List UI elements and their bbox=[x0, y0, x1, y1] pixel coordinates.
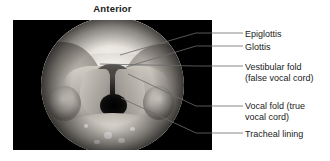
callout-epiglottis: Epiglottis bbox=[245, 29, 282, 40]
callout-glottis: Glottis bbox=[245, 42, 271, 53]
callout-vocal-fold: Vocal fold (true vocal cord) bbox=[245, 101, 305, 123]
orientation-label-anterior: Anterior bbox=[13, 3, 212, 14]
laryngoscopy-figure: Anterior bbox=[0, 0, 330, 161]
callout-vestibular-fold: Vestibular fold (false vocal cord) bbox=[245, 62, 314, 84]
endoscopic-photo-panel bbox=[13, 20, 212, 150]
callout-tracheal-lining: Tracheal lining bbox=[245, 129, 303, 140]
scope-field-of-view bbox=[41, 20, 184, 150]
scope-vignette bbox=[41, 20, 184, 150]
